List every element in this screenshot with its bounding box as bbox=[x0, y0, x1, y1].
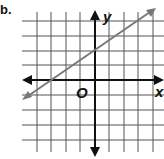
origin-label: O bbox=[76, 84, 88, 101]
graphed-line bbox=[22, 8, 156, 100]
line-upper-arrow-icon bbox=[146, 8, 156, 17]
x-axis-label: x bbox=[154, 83, 164, 100]
x-axis-left-arrow-icon bbox=[22, 75, 32, 85]
coordinate-graph: y x O bbox=[0, 0, 164, 159]
grid bbox=[22, 12, 164, 152]
x-axis bbox=[22, 75, 164, 85]
y-axis bbox=[90, 10, 100, 157]
y-axis-down-arrow-icon bbox=[90, 147, 100, 157]
y-axis-label: y bbox=[102, 8, 112, 25]
y-axis-up-arrow-icon bbox=[90, 10, 100, 20]
